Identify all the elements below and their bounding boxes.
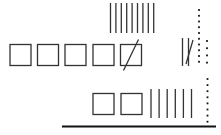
hundred-square xyxy=(93,94,114,115)
base-ten-diagram xyxy=(0,0,221,135)
hundred-square xyxy=(65,45,86,66)
one-dot xyxy=(207,78,209,80)
one-dot xyxy=(206,55,208,57)
middle-tens-sticks xyxy=(183,38,194,66)
one-dot xyxy=(207,84,209,86)
result-tens-sticks xyxy=(151,89,192,118)
one-dot xyxy=(198,55,200,57)
hundred-square xyxy=(38,45,59,66)
one-dot xyxy=(198,44,200,46)
result-ones-dots xyxy=(207,78,209,123)
hundred-square xyxy=(121,94,142,115)
cross-out-slash xyxy=(186,40,193,64)
hundred-square xyxy=(10,45,31,66)
one-dot xyxy=(206,47,208,49)
one-dot xyxy=(198,15,200,17)
one-dot xyxy=(207,109,209,111)
one-dot xyxy=(207,121,209,123)
one-dot xyxy=(206,62,208,64)
one-dot xyxy=(207,115,209,117)
one-dot xyxy=(198,9,200,11)
one-dot xyxy=(198,49,200,51)
one-dot xyxy=(198,26,200,28)
middle-ones-dots xyxy=(198,9,208,63)
one-dot xyxy=(207,96,209,98)
one-dot xyxy=(207,103,209,105)
middle-hundreds-squares xyxy=(10,40,142,71)
one-dot xyxy=(198,38,200,40)
hundred-square xyxy=(93,45,114,66)
result-hundreds-squares xyxy=(93,94,142,115)
one-dot xyxy=(198,21,200,23)
top-tens-sticks xyxy=(111,3,154,33)
one-dot xyxy=(198,32,200,34)
one-dot xyxy=(206,40,208,42)
one-dot xyxy=(198,61,200,63)
one-dot xyxy=(207,90,209,92)
